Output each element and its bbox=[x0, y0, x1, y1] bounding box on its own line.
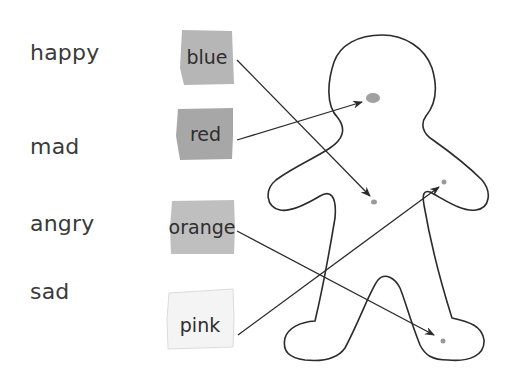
body-outline bbox=[268, 35, 488, 361]
color-label-blue: blue bbox=[186, 48, 227, 67]
color-label-orange: orange bbox=[169, 218, 236, 237]
spot-head bbox=[366, 93, 380, 103]
arrow-red-to-head bbox=[237, 102, 362, 140]
spot-right-foot bbox=[441, 339, 446, 344]
color-label-pink: pink bbox=[180, 316, 220, 335]
spot-chest-left bbox=[371, 200, 377, 205]
color-label-red: red bbox=[190, 125, 221, 144]
body-diagram bbox=[0, 0, 516, 375]
arrow-blue-to-chest bbox=[237, 60, 370, 196]
spot-chest-right bbox=[442, 180, 447, 185]
arrow-orange-to-foot bbox=[237, 231, 434, 335]
